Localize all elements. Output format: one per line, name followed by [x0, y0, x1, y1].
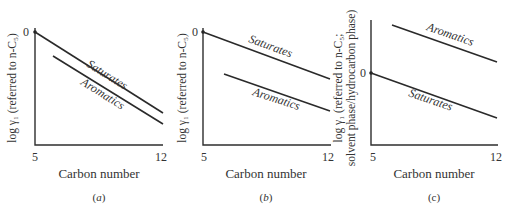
panel-b-x-axis-label: Carbon number	[225, 166, 307, 181]
panel-a-y-axis-label: log γ₁ (referred to n-C₅)	[6, 33, 19, 143]
panel-b-saturates-label: Saturates	[247, 32, 295, 61]
panel-a-caption: (a)	[93, 191, 106, 204]
panel-c-saturates-label: Saturates	[407, 86, 455, 114]
panel-b-caption: (b)	[260, 191, 273, 204]
panel-c-y-axis-label-line1: log γ₁ (referred to n-C₅;	[332, 34, 345, 143]
panel-a-x-tick-max: 12	[155, 150, 167, 164]
panel-b-x-tick-min: 5	[201, 150, 207, 164]
panel-c-aromatics-label: Aromatics	[424, 19, 476, 49]
panel-b-y-axis-label: log γ₁ (referred to n-C₅)	[176, 33, 189, 143]
panel-b-y-tick-0: 0	[192, 25, 198, 39]
panel-c-y-axis-label-line2: solvent phase/hydrocarbon phase)	[345, 10, 358, 167]
panel-c-x-axis-label: Carbon number	[393, 166, 475, 181]
panel-b-x-tick-max: 12	[322, 150, 334, 164]
panel-a: 0 5 12 Saturates Aromatics log γ₁ (refer…	[6, 25, 167, 204]
panel-a-x-axis-label: Carbon number	[58, 166, 140, 181]
panel-c: 0 5 12 Aromatics Saturates log γ₁ (refer…	[332, 10, 502, 204]
panel-c-axes	[371, 20, 498, 145]
panel-c-x-tick-min: 5	[370, 150, 376, 164]
figure: 0 5 12 Saturates Aromatics log γ₁ (refer…	[0, 0, 507, 215]
panel-c-x-tick-max: 12	[490, 150, 502, 164]
panel-a-x-tick-min: 5	[32, 150, 38, 164]
panel-c-caption: (c)	[428, 191, 441, 204]
panel-a-y-tick-0: 0	[23, 25, 29, 39]
panel-c-y-tick-0: 0	[360, 66, 366, 80]
panel-b-aromatics-label: Aromatics	[250, 84, 302, 113]
panel-b: 0 5 12 Saturates Aromatics log γ₁ (refer…	[176, 25, 334, 204]
